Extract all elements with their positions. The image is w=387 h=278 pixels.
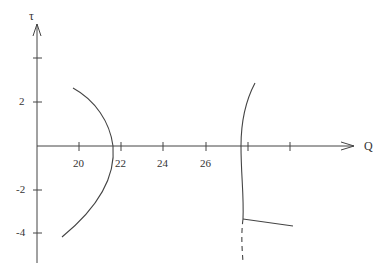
x-tick-label-26: 26 [200,158,211,169]
left-branch-curve [62,88,113,237]
x-axis-label: Q [364,140,373,152]
x-tick-label-22: 22 [115,158,126,169]
y-tick-label-neg2: -2 [16,184,25,195]
right-branch-dashed-curve [242,219,243,262]
x-tick-label-20: 20 [73,158,84,169]
y-axis-label: τ [29,10,34,22]
y-tick-label-2: 2 [19,96,25,107]
y-tick-label-neg4: -4 [16,227,25,238]
right-branch-horizontal-line [243,219,293,226]
curves [62,83,293,262]
x-tick-label-24: 24 [157,158,168,169]
chart-canvas [0,0,387,278]
axes [33,24,354,263]
